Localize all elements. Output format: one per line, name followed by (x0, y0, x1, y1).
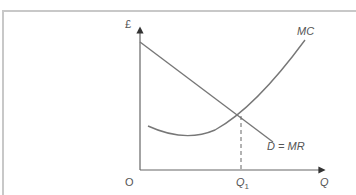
y-axis-label: £ (125, 18, 131, 30)
demand-mr-label: D = MR (267, 140, 305, 152)
economics-diagram: £ O Q1 Q MC D = MR (0, 0, 356, 195)
demand-mr-curve (140, 42, 273, 142)
q1-label: Q1 (236, 176, 250, 191)
mc-curve (148, 40, 305, 136)
q1-label-subscript: 1 (245, 182, 250, 191)
x-axis-label: Q (320, 176, 329, 188)
origin-label: O (125, 176, 134, 188)
mc-label: MC (297, 25, 314, 37)
